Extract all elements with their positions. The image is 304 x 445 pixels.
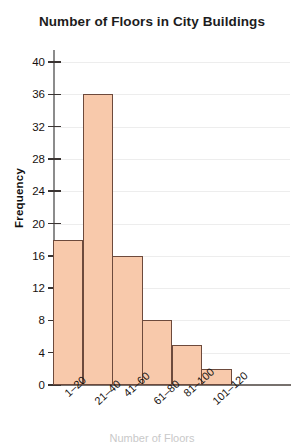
- y-axis-tick-label: 40: [11, 56, 45, 68]
- y-axis-tick-label: 8: [11, 314, 45, 326]
- y-axis-tick-label: 4: [11, 347, 45, 359]
- y-axis-tick-label: 16: [11, 250, 45, 262]
- y-axis-tick-label: 20: [11, 218, 45, 230]
- y-axis-title: Frequency: [13, 153, 25, 243]
- bar-series: [53, 62, 231, 385]
- bar: [83, 94, 113, 385]
- bar: [112, 256, 142, 385]
- chart-title: Number of Floors in City Buildings: [0, 14, 304, 29]
- y-axis-tick-label: 12: [11, 282, 45, 294]
- bar: [53, 240, 83, 385]
- y-axis-tick-label: 0: [11, 379, 45, 391]
- y-axis-tick-label: 36: [11, 88, 45, 100]
- x-axis-title: Number of Floors: [0, 432, 304, 445]
- y-axis-tick-label: 32: [11, 121, 45, 133]
- histogram-chart: Number of Floors in City Buildings Frequ…: [0, 0, 304, 445]
- y-axis-tick-label: 28: [11, 153, 45, 165]
- y-axis-tick-label: 24: [11, 185, 45, 197]
